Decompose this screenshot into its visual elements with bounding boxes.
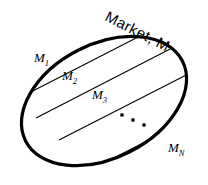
segment-label-mn-sub: N — [178, 148, 186, 158]
ellipsis-dot-1 — [120, 113, 123, 116]
market-partition-diagram: M1 M2 M3 MN Market, M — [0, 0, 208, 185]
ellipsis-dot-3 — [142, 123, 145, 126]
segment-label-m1: M1 — [33, 50, 49, 68]
segment-label-m1-sub: 1 — [45, 58, 49, 68]
market-diagram-canvas: M1 M2 M3 MN Market, M — [0, 0, 208, 185]
segment-label-m3-sub: 3 — [102, 95, 107, 105]
segment-label-mn: MN — [167, 140, 186, 158]
ellipsis-dot-2 — [131, 118, 134, 121]
